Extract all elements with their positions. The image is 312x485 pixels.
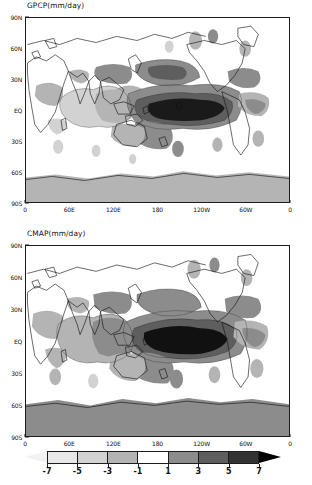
panel-gpcp-ytick-30n: 30N — [10, 75, 22, 82]
panel-gpcp-map-wrap: 90N 60N 30N EQ 30S 60S 90S 0 60E 120E 18… — [25, 17, 290, 203]
panel-gpcp-xtick-180: 180 — [152, 206, 163, 213]
panel-gpcp-map-frame — [25, 17, 290, 203]
shade-so-5 — [92, 145, 101, 157]
panel-cmap-map-frame — [25, 245, 290, 437]
colorbar-cell-1 — [78, 452, 108, 463]
colorbar-cell-0 — [48, 452, 78, 463]
colorbar-cell-2 — [108, 452, 138, 463]
shade-so-3-cmap — [209, 366, 221, 383]
colorbar-over-cap — [259, 451, 281, 463]
shade-so-6 — [129, 154, 136, 164]
colorbar-label-5: 5 — [226, 467, 232, 476]
panel-gpcp-ytick-30s: 30S — [11, 138, 22, 145]
colorbar-label--7: -7 — [43, 467, 52, 476]
shade-so-3 — [212, 138, 222, 152]
shade-so-2-cmap — [170, 370, 183, 389]
colorbar-label-3: 3 — [196, 467, 202, 476]
panel-gpcp: GPCP(mm/day) 90N 60N 30N EQ 30S 60S 90S … — [0, 0, 312, 222]
colorbar-label--3: -3 — [103, 467, 112, 476]
panel-gpcp-xtick-0-right: 0 — [288, 206, 292, 213]
shade-so-1-cmap — [49, 368, 61, 385]
panel-gpcp-ytick-90s: 90S — [11, 200, 22, 207]
panel-cmap-ytick-90n: 90N — [10, 242, 22, 249]
shade-so-2 — [172, 141, 184, 157]
panel-cmap-xtick-180: 180 — [152, 440, 163, 447]
panel-gpcp-xtick-60e: 60E — [64, 206, 75, 213]
shade-arctic-1-cmap — [187, 260, 200, 279]
panel-cmap-xtick-60e: 60E — [64, 440, 75, 447]
shade-so-1 — [53, 140, 63, 154]
panel-gpcp-ytick-90n: 90N — [10, 14, 22, 21]
panel-gpcp-ytick-60s: 60S — [11, 168, 22, 175]
shade-so-4-cmap — [250, 359, 263, 378]
panel-cmap-map-svg — [26, 246, 289, 436]
panel-gpcp-title: GPCP(mm/day) — [27, 1, 84, 10]
colorbar-cell-3 — [138, 452, 168, 463]
shade-arctic-2-cmap — [209, 258, 219, 273]
colorbar-body — [47, 451, 259, 464]
panel-cmap-xtick-60w: 60W — [239, 440, 252, 447]
shade-arctic-4 — [165, 40, 174, 52]
colorbar-label--5: -5 — [73, 467, 82, 476]
panel-cmap-xtick-120w: 120W — [193, 440, 210, 447]
shade-so-5-cmap — [88, 374, 98, 389]
panel-gpcp-xtick-120w: 120W — [193, 206, 210, 213]
panel-gpcp-xtick-0: 0 — [23, 206, 27, 213]
colorbar-label-7: 7 — [256, 467, 262, 476]
colorbar-cell-4 — [169, 452, 199, 463]
shade-npac-pos-core — [148, 65, 187, 80]
colorbar-label-1: 1 — [165, 467, 171, 476]
panel-gpcp-xtick-120e: 120E — [106, 206, 120, 213]
panel-cmap-xtick-120e: 120E — [106, 440, 120, 447]
figure: GPCP(mm/day) 90N 60N 30N EQ 30S 60S 90S … — [0, 0, 312, 485]
panel-cmap-ytick-90s: 90S — [11, 434, 22, 441]
colorbar-label--1: -1 — [133, 467, 142, 476]
panel-cmap: CMAP(mm/day) 90N 60N 30N EQ 30S 60S 90S … — [0, 228, 312, 440]
panel-gpcp-ytick-eq: EQ — [14, 107, 22, 114]
panel-cmap-ytick-30s: 30S — [11, 370, 22, 377]
panel-cmap-title: CMAP(mm/day) — [27, 229, 86, 238]
panel-cmap-ytick-60s: 60S — [11, 401, 22, 408]
panel-gpcp-xtick-60w: 60W — [239, 206, 252, 213]
shade-so-4 — [252, 130, 264, 146]
colorbar-cell-5 — [199, 452, 229, 463]
colorbar-cell-6 — [229, 452, 258, 463]
panel-cmap-xtick-0: 0 — [23, 440, 27, 447]
shade-antarctic-cmap — [26, 398, 289, 436]
panel-cmap-ytick-eq: EQ — [14, 338, 22, 345]
colorbar-under-cap — [25, 451, 47, 463]
panel-cmap-map-wrap: 90N 60N 30N EQ 30S 60S 90S 0 60E 120E 18… — [25, 245, 290, 437]
shade-antarctic — [26, 171, 289, 202]
panel-cmap-ytick-60n: 60N — [10, 274, 22, 281]
panel-cmap-ytick-30n: 30N — [10, 305, 22, 312]
panel-gpcp-ytick-60n: 60N — [10, 45, 22, 52]
panel-gpcp-map-svg — [26, 18, 289, 202]
colorbar: -7 -5 -3 -1 1 3 5 7 — [0, 447, 312, 485]
panel-cmap-xtick-0-right: 0 — [288, 440, 292, 447]
